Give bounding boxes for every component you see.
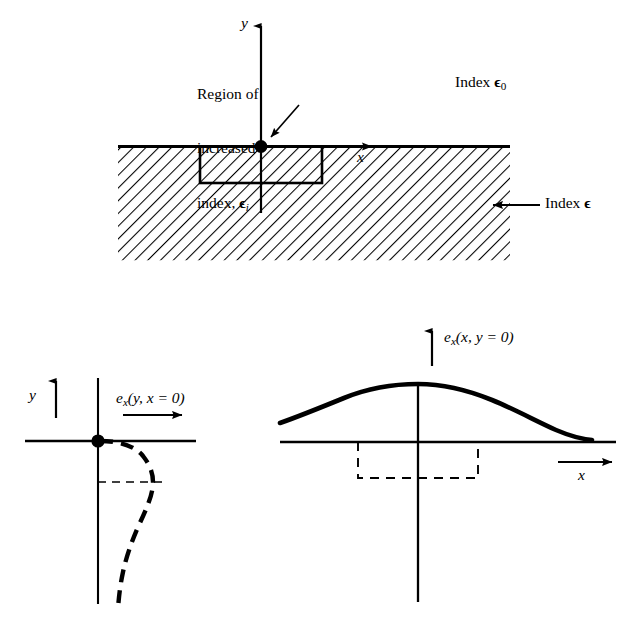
region-annotation-prefix: index, [197, 194, 239, 211]
index-epsilon-zero-prefix: Index [455, 73, 494, 90]
left-plot-curve-label: ex(y, x = 0) [116, 389, 185, 409]
left-curve-arguments: (y, x = 0) [128, 389, 185, 406]
region-annotation-line-3: index, ϵi [197, 194, 259, 214]
top-x-axis-label: x [357, 148, 364, 166]
region-of-increased-index-annotation: Region of increased index, ϵi [197, 48, 259, 251]
epsilon-0-subscript: 0 [501, 80, 507, 92]
right-curve-symbol: e [444, 328, 451, 345]
region-annotation-line-2: increased [197, 139, 259, 157]
right-plot-field-curve [280, 384, 592, 440]
left-plot-y-axis-label: y [29, 386, 36, 404]
index-epsilon-zero-label: Index ϵ0 [455, 73, 506, 93]
substrate-hatch-fill [118, 147, 510, 261]
figure-root: y x Region of increased index, ϵi Index … [0, 0, 640, 630]
right-plot-group [280, 331, 616, 602]
right-curve-arguments: (x, y = 0) [456, 328, 514, 345]
left-plot-group [25, 378, 196, 608]
index-epsilon-prefix: Index [545, 194, 584, 211]
left-curve-symbol: e [116, 389, 123, 406]
substrate-hatched-region [118, 147, 510, 261]
right-plot-x-axis-label: x [578, 466, 585, 484]
top-diagram-group [118, 26, 540, 261]
region-annotation-line-1: Region of [197, 85, 259, 103]
left-plot-origin-dot [91, 434, 104, 447]
figure-canvas [0, 0, 640, 630]
left-plot-field-curve [100, 441, 153, 608]
epsilon-symbol: ϵ [584, 194, 591, 211]
epsilon-i-subscript: i [246, 201, 249, 213]
top-y-axis-label: y [241, 14, 248, 32]
index-epsilon-label: Index ϵ [545, 194, 591, 212]
right-plot-curve-label: ex(x, y = 0) [444, 328, 514, 348]
region-leader-arrow [271, 105, 299, 137]
